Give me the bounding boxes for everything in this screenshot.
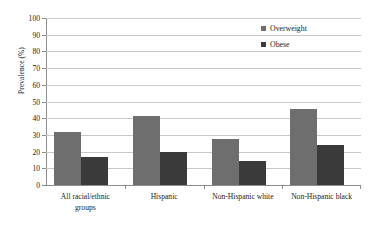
legend-swatch-icon — [261, 42, 266, 47]
bar-group — [46, 18, 125, 185]
x-axis-labels: All racial/ethnicgroupsHispanicNon-Hispa… — [46, 192, 361, 232]
x-tick-mark — [125, 185, 126, 189]
legend-swatch-icon — [261, 26, 266, 31]
bar-chart: Prevalence (%) 0102030405060708090100 Al… — [0, 0, 369, 234]
bar-overweight — [133, 116, 160, 185]
y-tick-label: 10 — [32, 164, 40, 173]
legend-label: Obese — [270, 40, 290, 49]
x-axis-label: Non-Hispanic black — [282, 192, 361, 203]
x-tick-mark — [360, 185, 361, 189]
y-tick-label: 100 — [29, 14, 40, 23]
y-tick-label: 40 — [32, 114, 40, 123]
x-axis-label: Non-Hispanic white — [204, 192, 283, 203]
bar-overweight — [290, 109, 317, 185]
bar-obese — [81, 157, 108, 185]
legend-label: Overweight — [270, 24, 307, 33]
legend-item[interactable]: Obese — [261, 36, 357, 52]
y-tick-label: 70 — [32, 64, 40, 73]
bar-overweight — [54, 132, 81, 185]
y-tick-mark — [42, 185, 46, 186]
y-tick-label: 60 — [32, 80, 40, 89]
y-tick-label: 50 — [32, 97, 40, 106]
y-tick-label: 20 — [32, 147, 40, 156]
y-axis-title: Prevalence (%) — [17, 6, 26, 136]
y-tick-label: 90 — [32, 30, 40, 39]
chart-legend: OverweightObese — [261, 20, 357, 52]
x-tick-mark — [204, 185, 205, 189]
bar-obese — [239, 161, 266, 185]
y-tick-label: 80 — [32, 47, 40, 56]
y-tick-label: 0 — [36, 181, 40, 190]
legend-item[interactable]: Overweight — [261, 20, 357, 36]
bar-obese — [160, 152, 187, 185]
bar-overweight — [212, 139, 239, 185]
x-axis-label: All racial/ethnicgroups — [46, 192, 125, 213]
bar-obese — [317, 145, 344, 185]
x-tick-mark — [282, 185, 283, 189]
y-tick-label: 30 — [32, 130, 40, 139]
x-axis-label: Hispanic — [125, 192, 204, 203]
bar-group — [125, 18, 204, 185]
